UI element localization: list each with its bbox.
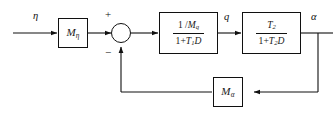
lag2-num-subscript: 2: [273, 24, 276, 31]
signal-label-output: α: [311, 12, 317, 23]
block-gain-eta: Mη: [58, 18, 88, 48]
block-gain-eta-symbol: M: [66, 26, 75, 38]
sum-minus-sign: −: [105, 47, 111, 58]
lag1-num-subscript: q: [196, 24, 199, 31]
block-lag-2-fraction: T2 1+T2D: [256, 19, 288, 47]
block-gain-eta-label: Mη: [66, 27, 79, 39]
block-lag-1: 1 /Mq 1+T1D: [159, 12, 218, 54]
lag1-den-operator-d: D: [194, 35, 201, 46]
block-lag-1-fraction: 1 /Mq 1+T1D: [173, 19, 205, 47]
block-lag-2-numerator: T2: [264, 19, 279, 32]
sum-plus-sign: +: [105, 9, 111, 20]
lag1-num-lead: 1 /: [178, 19, 188, 30]
block-lag-1-denominator: 1+T1D: [173, 34, 205, 47]
block-diagram: η q α + − Mη 1 /Mq 1+T1D T2 1+T2D Mα: [0, 0, 336, 121]
signal-label-input: η: [33, 11, 38, 22]
block-gain-alpha-label: Mα: [221, 86, 234, 98]
block-gain-alpha-subscript: α: [231, 90, 235, 99]
lag1-num-symbol: M: [188, 19, 196, 30]
block-gain-alpha: Mα: [213, 77, 243, 107]
block-gain-alpha-symbol: M: [221, 85, 230, 97]
signal-label-q: q: [224, 12, 229, 23]
block-lag-2-denominator: 1+T2D: [256, 34, 288, 47]
lag2-den-operator-d: D: [277, 35, 284, 46]
block-lag-1-numerator: 1 /Mq: [175, 19, 202, 32]
block-gain-eta-subscript: η: [76, 31, 80, 40]
summing-junction: [111, 23, 131, 43]
block-lag-2: T2 1+T2D: [242, 12, 301, 54]
